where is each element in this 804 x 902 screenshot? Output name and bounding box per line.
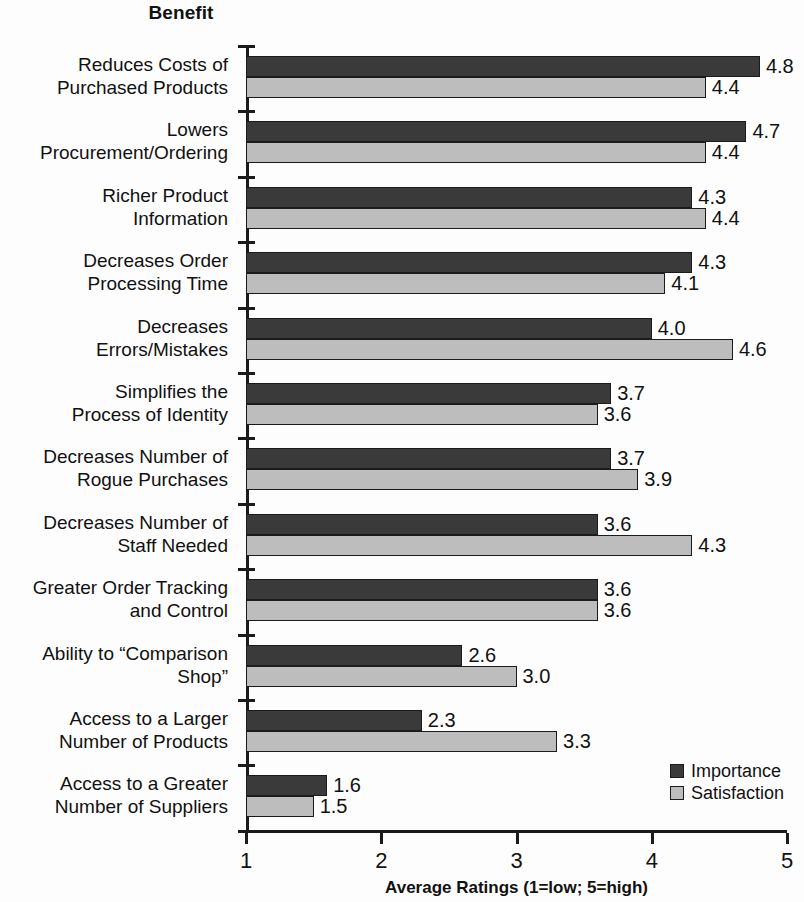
bar-importance — [246, 448, 611, 469]
category-label: Simplifies the Process of Identity — [0, 380, 228, 426]
bar-importance — [246, 252, 692, 273]
category-label: Access to a Greater Number of Suppliers — [0, 772, 228, 818]
y-axis-tick — [238, 503, 255, 506]
bar-value-label: 3.6 — [604, 514, 632, 535]
category-label: Lowers Procurement/Ordering — [0, 118, 228, 164]
bar-value-label: 4.3 — [698, 535, 726, 556]
category-label: Reduces Costs of Purchased Products — [0, 53, 228, 99]
category-label: Decreases Number of Rogue Purchases — [0, 445, 228, 491]
bar-satisfaction — [246, 666, 517, 687]
bar-importance — [246, 775, 327, 796]
bar-satisfaction — [246, 600, 598, 621]
x-axis-tick — [651, 833, 654, 844]
bar-value-label: 2.6 — [468, 645, 496, 666]
bar-importance — [246, 187, 692, 208]
bar-value-label: 3.0 — [523, 666, 551, 687]
bar-value-label: 3.6 — [604, 404, 632, 425]
bar-value-label: 4.4 — [712, 77, 740, 98]
bar-value-label: 4.8 — [766, 56, 794, 77]
bar-satisfaction — [246, 208, 706, 229]
y-axis-tick — [238, 241, 255, 244]
bar-importance — [246, 645, 462, 666]
y-axis-tick — [238, 45, 255, 48]
x-axis-tick-label: 2 — [361, 848, 401, 874]
bar-value-label: 4.7 — [752, 121, 780, 142]
x-axis-tick — [380, 833, 383, 844]
category-label: Decreases Errors/Mistakes — [0, 315, 228, 361]
x-axis-tick — [245, 833, 248, 844]
legend-label: Satisfaction — [691, 784, 784, 802]
bar-chart: Benefit 12345 Reduces Costs of Purchased… — [0, 0, 804, 902]
bar-value-label: 4.4 — [712, 208, 740, 229]
y-axis-tick — [238, 699, 255, 702]
y-axis-tick — [238, 372, 255, 375]
y-axis-tick — [238, 307, 255, 310]
bar-value-label: 3.9 — [644, 469, 672, 490]
x-axis-tick-label: 1 — [226, 848, 266, 874]
bar-satisfaction — [246, 404, 598, 425]
y-axis-tick — [238, 176, 255, 179]
bar-value-label: 2.3 — [428, 710, 456, 731]
category-label: Richer Product Information — [0, 184, 228, 230]
x-axis-tick — [786, 833, 789, 844]
bar-value-label: 4.3 — [698, 252, 726, 273]
legend-item: Importance — [670, 760, 784, 782]
bar-satisfaction — [246, 796, 314, 817]
y-axis-tick — [238, 764, 255, 767]
y-axis-tick — [238, 437, 255, 440]
y-axis-tick — [238, 110, 255, 113]
category-label: Decreases Order Processing Time — [0, 249, 228, 295]
bar-value-label: 3.3 — [563, 731, 591, 752]
bar-importance — [246, 121, 746, 142]
category-label: Greater Order Tracking and Control — [0, 576, 228, 622]
bar-satisfaction — [246, 77, 706, 98]
bar-value-label: 1.6 — [333, 775, 361, 796]
legend-swatch-satisfaction — [670, 786, 684, 800]
legend-label: Importance — [691, 762, 781, 780]
bar-importance — [246, 383, 611, 404]
legend-item: Satisfaction — [670, 782, 784, 804]
bar-importance — [246, 56, 760, 77]
bar-value-label: 4.4 — [712, 142, 740, 163]
bar-importance — [246, 710, 422, 731]
x-axis-tick-label: 3 — [497, 848, 537, 874]
bar-satisfaction — [246, 469, 638, 490]
bar-value-label: 3.6 — [604, 579, 632, 600]
chart-legend: ImportanceSatisfaction — [670, 760, 784, 804]
x-axis-tick-label: 4 — [632, 848, 672, 874]
bar-value-label: 4.6 — [739, 339, 767, 360]
bar-value-label: 4.0 — [658, 318, 686, 339]
bar-satisfaction — [246, 273, 665, 294]
legend-swatch-importance — [670, 764, 684, 778]
x-axis-tick — [516, 833, 519, 844]
bar-importance — [246, 579, 598, 600]
bar-value-label: 1.5 — [320, 796, 348, 817]
bar-importance — [246, 514, 598, 535]
bar-value-label: 3.7 — [617, 383, 645, 404]
category-label: Access to a Larger Number of Products — [0, 707, 228, 753]
bar-value-label: 3.7 — [617, 448, 645, 469]
x-axis-tick-label: 5 — [767, 848, 804, 874]
bar-value-label: 3.6 — [604, 600, 632, 621]
bar-value-label: 4.3 — [698, 187, 726, 208]
category-label: Ability to “Comparison Shop” — [0, 642, 228, 688]
bar-satisfaction — [246, 731, 557, 752]
bar-satisfaction — [246, 339, 733, 360]
bar-value-label: 4.1 — [671, 273, 699, 294]
bar-importance — [246, 318, 652, 339]
y-axis-tick — [238, 634, 255, 637]
page-title: Benefit — [0, 2, 362, 24]
bar-satisfaction — [246, 142, 706, 163]
x-axis-title: Average Ratings (1=low; 5=high) — [246, 878, 787, 898]
y-axis-tick — [238, 568, 255, 571]
category-label: Decreases Number of Staff Needed — [0, 511, 228, 557]
bar-satisfaction — [246, 535, 692, 556]
